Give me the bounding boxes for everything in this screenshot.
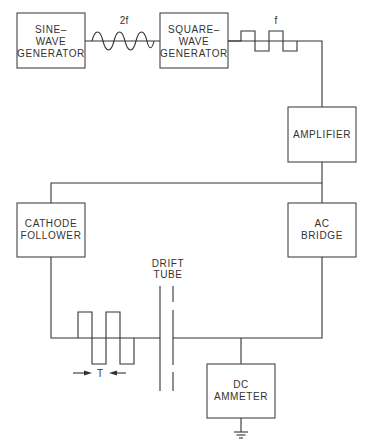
sine-gen-label-1: SINE– — [35, 24, 67, 35]
amplifier-block: AMPLIFIER — [288, 107, 356, 162]
amplifier-label: AMPLIFIER — [293, 129, 351, 140]
square-gen-label-3: GENERATOR — [160, 48, 228, 59]
ac-bridge-label-1: AC — [314, 218, 329, 229]
square-gen-label-1: SQUARE– — [168, 24, 220, 35]
dc-ammeter-label-1: DC — [233, 379, 249, 390]
cathode-follower-label-2: FOLLOWER — [21, 230, 82, 241]
drift-tube-output-wire — [173, 257, 322, 338]
dc-ammeter-label-2: AMMETER — [214, 391, 268, 402]
sine-wave-generator-block: SINE– WAVE GENERATOR — [17, 13, 85, 68]
cathode-follower-label-1: CATHODE — [25, 218, 77, 229]
drift-tube-icon: DRIFT TUBE — [152, 258, 184, 391]
square-frequency-label: f — [275, 15, 278, 26]
drift-tube-label-2: TUBE — [153, 269, 182, 280]
ground-icon — [234, 418, 248, 438]
sine-wave-signal-icon: 2f — [85, 15, 160, 50]
sine-frequency-label: 2f — [120, 15, 129, 26]
period-label: T — [97, 368, 103, 379]
cathode-follower-block: CATHODE FOLLOWER — [17, 203, 85, 257]
drift-tube-input-signal-icon — [51, 257, 160, 364]
period-annotation: T — [73, 368, 126, 379]
sine-gen-label-3: GENERATOR — [17, 48, 85, 59]
feedback-wire — [51, 183, 322, 203]
dc-ammeter-block: DC AMMETER — [207, 364, 275, 418]
ac-bridge-block: AC BRIDGE — [288, 203, 356, 257]
block-diagram: SINE– WAVE GENERATOR 2f SQUARE– WAVE GEN… — [0, 0, 368, 444]
square-gen-label-2: WAVE — [179, 36, 210, 47]
sine-gen-label-2: WAVE — [36, 36, 67, 47]
ac-bridge-label-2: BRIDGE — [301, 230, 343, 241]
square-wave-generator-block: SQUARE– WAVE GENERATOR — [160, 13, 228, 68]
square-wave-signal-icon: f — [228, 15, 322, 107]
drift-tube-label-1: DRIFT — [152, 258, 184, 269]
